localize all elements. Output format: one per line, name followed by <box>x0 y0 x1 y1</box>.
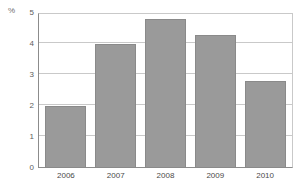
bars-container <box>38 13 293 168</box>
x-axis-tick-labels: 20062007200820092010 <box>38 171 293 181</box>
x-tick-label: 2010 <box>240 171 290 181</box>
bar-slot <box>240 13 290 168</box>
bar-2006[interactable] <box>45 106 86 168</box>
bar-slot <box>141 13 191 168</box>
bar-chart: % 012345 20062007200820092010 <box>0 0 306 193</box>
x-tick-label: 2007 <box>91 171 141 181</box>
bar-slot <box>190 13 240 168</box>
x-tick-label: 2008 <box>141 171 191 181</box>
x-tick-label: 2009 <box>190 171 240 181</box>
x-tick-label: 2006 <box>41 171 91 181</box>
y-tick-label: 0 <box>10 164 34 172</box>
bar-2007[interactable] <box>95 44 136 168</box>
bar-slot <box>91 13 141 168</box>
bar-2009[interactable] <box>195 35 236 168</box>
y-tick-label: 1 <box>10 133 34 141</box>
bar-2008[interactable] <box>145 19 186 168</box>
bar-slot <box>41 13 91 168</box>
bar-2010[interactable] <box>245 81 286 168</box>
y-tick-label: 2 <box>10 102 34 110</box>
y-tick-label: 3 <box>10 71 34 79</box>
y-tick-label: 5 <box>10 9 34 17</box>
y-tick-label: 4 <box>10 40 34 48</box>
